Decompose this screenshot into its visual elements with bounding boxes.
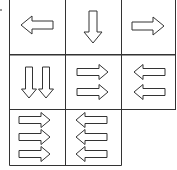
down-arrow-icon (39, 67, 54, 98)
down-arrow-icon (84, 11, 102, 43)
left-arrow-icon (76, 130, 107, 145)
cell-r2-c1 (76, 113, 107, 162)
right-arrow-icon (19, 147, 50, 162)
left-arrow-icon (21, 16, 53, 34)
left-arrow-icon (134, 85, 165, 100)
left-arrow-icon (76, 147, 107, 162)
right-arrow-icon (77, 65, 108, 80)
cell-r0-c0 (21, 16, 53, 34)
cell-r0-c2 (132, 17, 164, 35)
cell-r1-c1 (77, 65, 108, 100)
right-arrow-icon (132, 17, 164, 35)
right-arrow-icon (77, 85, 108, 100)
right-arrow-icon (19, 113, 50, 128)
right-arrow-icon (19, 130, 50, 145)
left-arrow-icon (76, 113, 107, 128)
cell-r1-c2 (134, 65, 165, 100)
cell-r2-c0 (19, 113, 50, 162)
arrow-puzzle-grid (0, 0, 177, 170)
cell-r0-c1 (84, 11, 102, 43)
cell-r1-c0 (22, 67, 54, 98)
left-arrow-icon (134, 65, 165, 80)
down-arrow-icon (22, 67, 37, 98)
